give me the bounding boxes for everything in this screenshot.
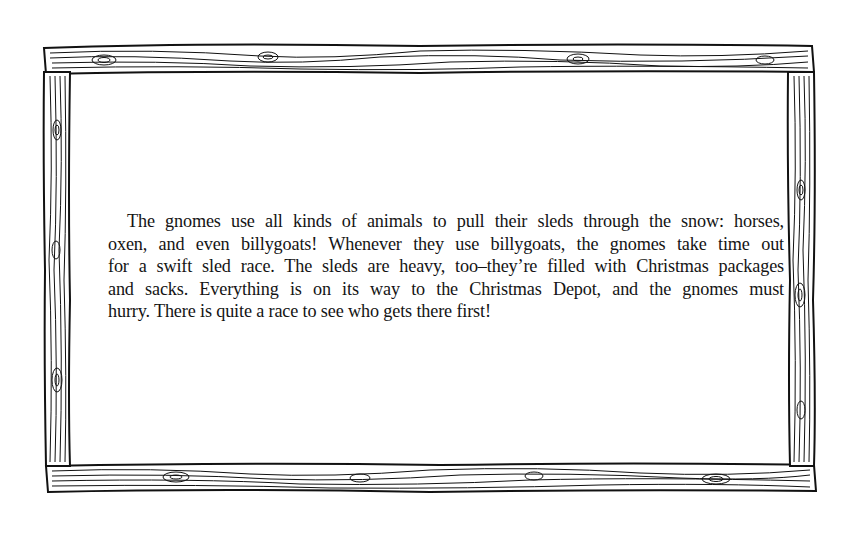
paragraph-line-4: and sacks. Everything is on its way to t…: [108, 278, 784, 301]
paragraph-line-2: oxen, and even billygoats! Whenever they…: [108, 233, 784, 256]
right-plank: [788, 72, 815, 466]
story-paragraph: The gnomes use all kinds of animals to p…: [108, 210, 784, 323]
paragraph-line-3: for a swift sled race. The sleds are hea…: [108, 255, 784, 278]
paragraph-line-1: The gnomes use all kinds of animals to p…: [108, 210, 784, 233]
paragraph-line-5: hurry. There is quite a race to see who …: [108, 300, 784, 323]
